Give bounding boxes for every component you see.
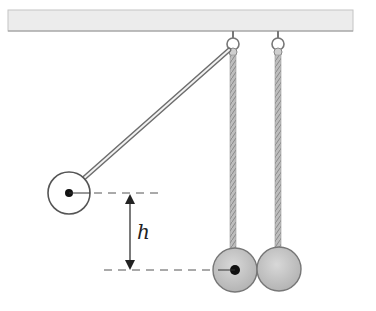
pendulum-diagram: h	[0, 0, 376, 311]
pendulum-rod	[83, 50, 229, 179]
arrow-down-icon	[125, 260, 135, 270]
diagram-canvas	[0, 0, 376, 311]
rest-ball-struck	[213, 248, 257, 292]
height-arrow	[125, 194, 135, 270]
rest-ball-second	[257, 247, 301, 291]
rope-left	[230, 55, 236, 249]
arrow-up-icon	[125, 194, 135, 204]
ceiling-bar	[8, 10, 353, 31]
raised-ball	[48, 172, 90, 214]
pivot-hook-right	[272, 31, 284, 56]
rope-right	[275, 55, 281, 248]
height-label: h	[137, 222, 150, 242]
